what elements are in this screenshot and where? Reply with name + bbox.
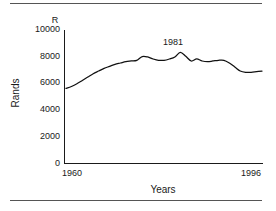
y-tick-label-6000: 6000 <box>18 78 60 87</box>
axes-group <box>65 30 263 164</box>
series-rands-line <box>66 52 262 88</box>
figure-container: R 10000 8000 6000 4000 2000 0 1960 1996 … <box>0 0 276 211</box>
x-axis-title: Years <box>64 185 262 195</box>
chart-plot-area: R 10000 8000 6000 4000 2000 0 1960 1996 … <box>0 0 276 211</box>
y-tick-label-8000: 8000 <box>18 52 60 61</box>
x-tick-label-1996: 1996 <box>241 169 261 178</box>
y-tick-label-2000: 2000 <box>18 132 60 141</box>
x-tick-label-1960: 1960 <box>62 169 82 178</box>
annotation-1981: 1981 <box>163 38 183 47</box>
y-tick-label-4000: 4000 <box>18 105 60 114</box>
series-group <box>66 52 262 88</box>
y-axis-title: Rands <box>11 63 21 123</box>
y-tick-label-0: 0 <box>18 159 60 168</box>
y-tick-label-10000: 10000 <box>18 25 60 34</box>
